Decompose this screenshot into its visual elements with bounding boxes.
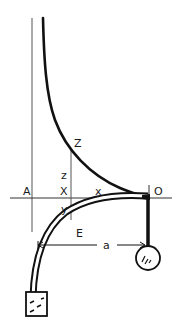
curve-z — [43, 18, 148, 198]
label-a-length: a — [103, 239, 110, 252]
label-e-point: E — [76, 227, 83, 240]
tube-inner — [33, 195, 148, 298]
label-y-depth: y — [61, 203, 68, 216]
block — [26, 292, 47, 316]
label-a-point: A — [23, 185, 31, 198]
tube-outer — [33, 195, 148, 298]
label-o-origin: O — [154, 185, 163, 198]
label-x-distance: x — [95, 185, 102, 198]
label-x-point: X — [60, 185, 68, 198]
label-z-height: z — [61, 169, 67, 182]
pendulum-bob — [136, 246, 160, 270]
label-z-curve: Z — [74, 137, 82, 150]
diagram-canvas: A X x O Z z y E a — [0, 0, 180, 335]
